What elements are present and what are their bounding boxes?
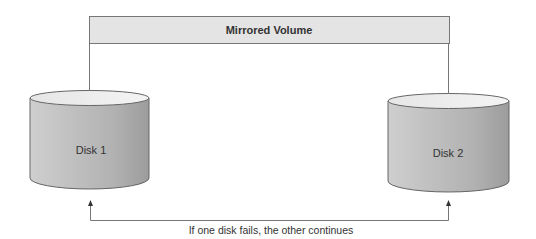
disk-2: Disk 2 [388,94,509,192]
arrowhead-disk-2-icon [446,200,451,206]
failover-arrow-line [91,203,449,221]
arrowhead-disk-1-icon [88,200,93,206]
diagram-caption: If one disk fails, the other continues [189,224,354,236]
mirrored-volume-banner: Mirrored Volume [90,17,450,44]
disk-1-label: Disk 1 [76,144,107,156]
disk-1: Disk 1 [30,91,149,190]
banner-label: Mirrored Volume [226,24,313,36]
mirrored-volume-diagram: Mirrored Volume Disk 1 Disk 2 If one dis… [0,0,536,239]
failover-arrow [88,200,451,221]
disk-2-label: Disk 2 [433,147,464,159]
disk-1-top [30,91,149,106]
disk-2-top [388,94,509,109]
